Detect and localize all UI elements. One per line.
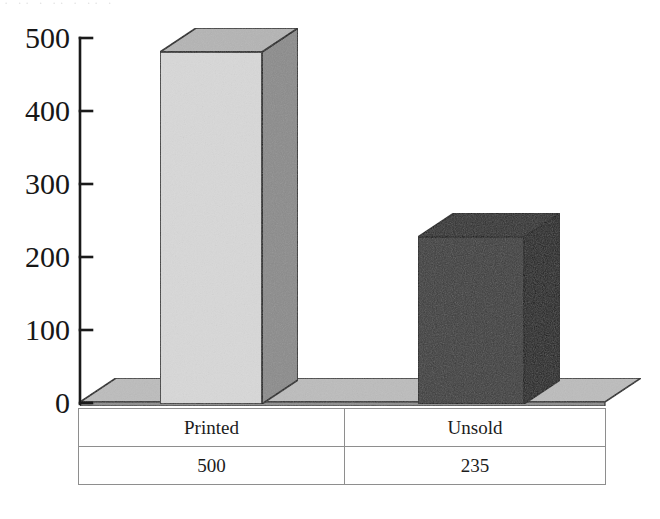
table-cell-category-unsold: Unsold xyxy=(345,409,606,447)
y-tick-label-100: 100 xyxy=(8,315,70,345)
y-tick-label-300: 300 xyxy=(8,169,70,199)
y-tick-label-200: 200 xyxy=(8,242,70,272)
y-tick-label-0: 0 xyxy=(8,388,70,418)
table-row-categories: Printed Unsold xyxy=(79,409,606,447)
bar-unsold xyxy=(418,213,560,404)
table-cell-category-printed: Printed xyxy=(79,409,345,447)
table-cell-value-printed: 500 xyxy=(79,447,345,485)
table-cell-value-unsold: 235 xyxy=(345,447,606,485)
bar-printed xyxy=(160,28,298,404)
y-tick-label-500: 500 xyxy=(8,23,70,53)
table-row-values: 500 235 xyxy=(79,447,606,485)
y-axis xyxy=(80,38,92,404)
bar-chart-figure: · ·· · ·· · ·· · xyxy=(0,0,660,519)
y-tick-label-400: 400 xyxy=(8,96,70,126)
chart-data-table: Printed Unsold 500 235 xyxy=(78,408,606,485)
